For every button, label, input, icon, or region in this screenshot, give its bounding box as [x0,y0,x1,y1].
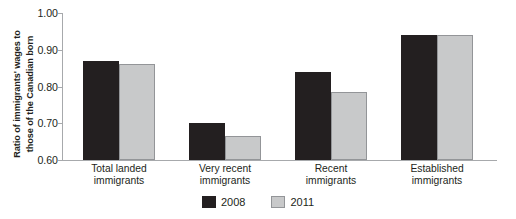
bar-2011-4 [437,35,473,160]
y-axis-tick-mark [58,87,63,88]
category-label-line: immigrants [273,175,389,187]
category-label-line: immigrants [61,175,177,187]
y-axis-tick-labels: 1.000.900.800.700.60 [24,0,58,219]
bar-2008-1 [83,61,119,160]
bar-chart-figure: Ratio of immigrants' wages to those of t… [0,0,516,219]
legend-item-2011: 2011 [271,196,314,208]
x-axis-category-label: Total landedimmigrants [61,163,177,187]
y-axis-tick-label: 1.00 [24,8,58,19]
legend-label: 2008 [221,197,245,208]
category-label-line: immigrants [167,175,283,187]
y-axis-tick-mark [58,160,63,161]
legend-label: 2011 [290,197,314,208]
category-label-line: immigrants [379,175,495,187]
x-axis-line [62,160,497,161]
x-axis-category-label: Recentimmigrants [273,163,389,187]
x-axis-category-label: Establishedimmigrants [379,163,495,187]
x-axis-category-label: Very recentimmigrants [167,163,283,187]
bar-2008-4 [401,35,437,160]
bar-2011-2 [225,136,261,160]
category-label-line: Recent [273,163,389,175]
category-label-line: Total landed [61,163,177,175]
y-axis-title-line-1: Ratio of immigrants' wages to [11,30,24,157]
category-label-line: Established [379,163,495,175]
bar-2008-2 [189,123,225,160]
gray-swatch [271,196,285,208]
category-label-line: Very recent [167,163,283,175]
chart-legend: 20082011 [0,196,516,208]
y-axis-tick-label: 0.90 [24,44,58,55]
legend-item-2008: 2008 [202,196,245,208]
y-axis-tick-mark [58,123,63,124]
dark-swatch [202,196,216,208]
y-axis-tick-label: 0.80 [24,81,58,92]
y-axis-tick-label: 0.70 [24,118,58,129]
bar-2011-3 [331,92,367,160]
bar-2011-1 [119,64,155,160]
y-axis-tick-label: 0.60 [24,155,58,166]
bar-2008-3 [295,72,331,160]
